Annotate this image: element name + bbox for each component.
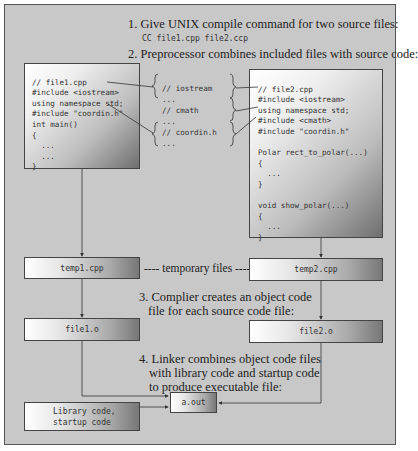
connector-lines <box>0 0 404 451</box>
